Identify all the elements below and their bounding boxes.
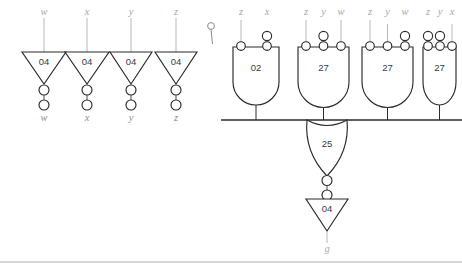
- gate-27-c[interactable]: 27 z y x: [423, 6, 456, 120]
- gate-27-b-input-2-bubble: [401, 42, 410, 51]
- gate-02-input-0-bubble: [237, 42, 246, 51]
- gate-27-a-input-2-label: w: [337, 6, 344, 17]
- gate-27-a-input-0-label: z: [303, 6, 308, 17]
- gate-27-c-input-1-bubble: [436, 42, 445, 51]
- gate-02-type-label: 02: [251, 62, 262, 73]
- inverter-y-type-label: 04: [126, 56, 137, 67]
- inverter-w-output-node: [39, 100, 49, 110]
- inverter-y-output-node: [126, 100, 136, 110]
- inverter-x-type-label: 04: [82, 56, 93, 67]
- gate-27-c-type-label: 27: [434, 62, 445, 73]
- gate-02-input-1-label: x: [264, 6, 270, 17]
- inverter-y[interactable]: 04 y y: [110, 6, 152, 123]
- gate-27-b-input-1-label: y: [384, 6, 390, 17]
- gate-25-output-bubble: [322, 176, 332, 186]
- gate-27-c-input-1-node: [435, 31, 444, 40]
- gate-02[interactable]: 02 z x: [233, 6, 279, 120]
- inverter-z-type-label: 04: [171, 56, 182, 67]
- inverter-x-output-label: x: [84, 112, 90, 123]
- gate-27-b[interactable]: 27 z y w: [362, 6, 413, 120]
- circuit-diagram: 04 w w 04 x x 04 y y: [0, 0, 462, 267]
- gate-27-b-type-label: 27: [382, 62, 393, 73]
- gate-27-c-input-0-bubble: [424, 42, 433, 51]
- output-inverter[interactable]: 04 g: [306, 199, 348, 254]
- gate-27-b-input-0-bubble: [366, 42, 375, 51]
- gate-27-c-input-0-node: [423, 31, 432, 40]
- gate-27-c-input-1-label: y: [437, 6, 443, 17]
- inverter-x-output-node: [82, 100, 92, 110]
- gate-02-input-1-bubble: [263, 42, 272, 51]
- gate-27-a-input-1-bubble: [319, 42, 328, 51]
- inverter-w-output-bubble: [39, 85, 49, 95]
- gate-27-c-body: [423, 47, 456, 105]
- gate-27-b-input-1-bubble: [383, 42, 392, 51]
- gate-27-a[interactable]: 27 z y w: [298, 6, 349, 120]
- inverter-y-input-label: y: [128, 6, 134, 17]
- gate-27-a-input-0-bubble: [302, 42, 311, 51]
- gate-27-b-input-0-label: z: [367, 6, 372, 17]
- output-inverter-type-label: 04: [322, 203, 333, 214]
- inverter-w-type-label: 04: [39, 56, 50, 67]
- inverter-z-input-label: z: [173, 6, 178, 17]
- gate-27-a-input-2-bubble: [337, 42, 346, 51]
- gate-27-a-input-1-node: [319, 31, 328, 40]
- inverter-x[interactable]: 04 x x: [65, 6, 109, 123]
- gate-25[interactable]: 25: [307, 120, 348, 200]
- inverter-x-input-label: x: [84, 6, 90, 17]
- probe-marker-icon: [208, 23, 215, 44]
- gate-27-b-input-2-node: [400, 31, 409, 40]
- gate-27-a-type-label: 27: [318, 62, 329, 73]
- inverter-w[interactable]: 04 w w: [22, 6, 66, 123]
- inverter-z-output-label: z: [173, 112, 178, 123]
- gate-27-a-input-1-label: y: [320, 6, 326, 17]
- gate-02-body: [233, 47, 279, 105]
- gate-27-b-body: [362, 47, 413, 108]
- inverter-y-output-bubble: [126, 85, 136, 95]
- output-signal-label: g: [324, 243, 329, 254]
- circuit-canvas: 04 w w 04 x x 04 y y: [0, 0, 462, 267]
- gate-02-input-1-node: [262, 31, 271, 40]
- inverter-z-output-node: [171, 100, 181, 110]
- gate-27-c-input-2-bubble: [448, 42, 457, 51]
- inverter-w-output-label: w: [40, 112, 47, 123]
- inverter-y-output-label: y: [128, 112, 134, 123]
- inverter-z[interactable]: 04 z z: [155, 6, 197, 123]
- inverter-x-output-bubble: [82, 85, 92, 95]
- gate-27-b-input-2-label: w: [401, 6, 408, 17]
- gate-27-a-body: [298, 47, 349, 108]
- inverter-w-input-label: w: [40, 6, 47, 17]
- gate-27-c-input-2-label: x: [449, 6, 455, 17]
- gate-02-input-0-label: z: [238, 6, 243, 17]
- gate-25-type-label: 25: [322, 138, 333, 149]
- gate-27-c-input-0-label: z: [425, 6, 430, 17]
- inverter-z-output-bubble: [171, 85, 181, 95]
